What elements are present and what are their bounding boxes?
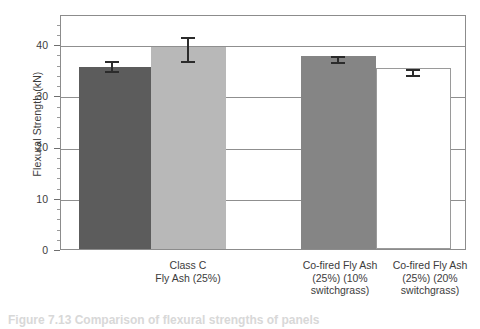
y-tick-label-30: 30 xyxy=(6,91,48,101)
x-category-label-cofired-10: Co-fired Fly Ash (25%) (10% switchgrass) xyxy=(288,259,392,297)
error-bar-cap-bottom xyxy=(181,61,195,63)
bar-co-fired-10-switchgrass xyxy=(301,56,376,249)
error-bar-4 xyxy=(406,69,420,77)
y-tick-label-20: 20 xyxy=(6,142,48,152)
error-bar-cap-bottom xyxy=(331,62,345,64)
error-bar-cap-top xyxy=(181,37,195,39)
x-category-line: Co-fired Fly Ash xyxy=(288,259,392,272)
error-bar-cap-top xyxy=(105,61,119,63)
error-bar-3 xyxy=(331,56,345,64)
error-bar-stem xyxy=(187,37,189,63)
error-bar-cap-bottom xyxy=(406,75,420,77)
x-category-line: (25%) (20% xyxy=(380,272,480,285)
bar-class-c-fly-ash-1 xyxy=(79,67,151,249)
y-tick-label-40: 40 xyxy=(6,40,48,50)
x-category-line: switchgrass) xyxy=(288,284,392,297)
plot-area xyxy=(60,15,466,250)
figure-container: Flexural Strength (kN) 40 30 20 10 0 xyxy=(0,0,480,329)
error-bar-cap-bottom xyxy=(105,71,119,73)
bar-class-c-fly-ash-2 xyxy=(151,47,226,249)
y-tick-label-0: 0 xyxy=(6,245,48,255)
x-category-line: Class C xyxy=(132,259,244,272)
figure-caption: Figure 7.13 Comparison of flexural stren… xyxy=(8,313,474,327)
x-category-line: Fly Ash (25%) xyxy=(132,272,244,285)
y-tick-major-0 xyxy=(54,250,60,251)
error-bar-2 xyxy=(181,37,195,63)
gridline-40 xyxy=(61,46,465,47)
x-category-label-class-c: Class C Fly Ash (25%) xyxy=(132,259,244,284)
x-category-line: switchgrass) xyxy=(380,284,480,297)
error-bar-cap-top xyxy=(331,56,345,58)
x-category-line: (25%) (10% xyxy=(288,272,392,285)
x-category-line: Co-fired Fly Ash xyxy=(380,259,480,272)
bar-co-fired-20-switchgrass xyxy=(376,68,451,249)
error-bar-cap-top xyxy=(406,69,420,71)
error-bar-1 xyxy=(105,61,119,73)
x-category-label-cofired-20: Co-fired Fly Ash (25%) (20% switchgrass) xyxy=(380,259,480,297)
y-tick-label-10: 10 xyxy=(6,194,48,204)
